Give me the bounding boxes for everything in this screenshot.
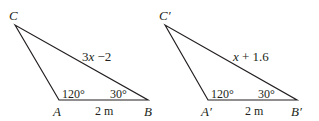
angle-a-prime-label: 120° <box>211 87 234 101</box>
side-c-prime-b-prime-label: x + 1.6 <box>232 49 269 64</box>
side-ab-label: 2 m <box>95 104 114 118</box>
side-a-prime-b-prime-label: 2 m <box>245 104 264 118</box>
angle-b-prime-label: 30° <box>258 87 275 101</box>
vertex-c-label: C <box>9 8 18 23</box>
side-cb-label: 3x −2 <box>82 49 111 64</box>
vertex-a-label: A <box>52 104 61 119</box>
triangle-abc: C A B 120° 30° 2 m 3x −2 <box>9 8 152 119</box>
vertex-b-prime-label: B′ <box>291 104 302 119</box>
triangle-a-prime-b-prime-c-prime: C′ A′ B′ 120° 30° 2 m x + 1.6 <box>159 8 302 119</box>
vertex-b-label: B <box>144 104 152 119</box>
angle-a-label: 120° <box>62 87 85 101</box>
vertex-a-prime-label: A′ <box>200 104 212 119</box>
vertex-c-prime-label: C′ <box>159 8 171 23</box>
diagram-canvas: C A B 120° 30° 2 m 3x −2 C′ A′ B′ 120° 3… <box>0 0 319 121</box>
angle-b-label: 30° <box>110 87 127 101</box>
